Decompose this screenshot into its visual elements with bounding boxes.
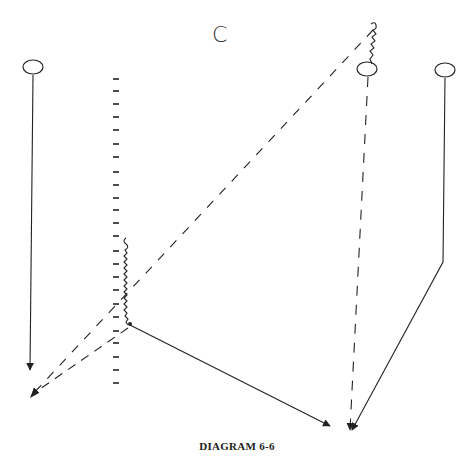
- pass-arrow: [130, 325, 330, 426]
- long-diagonal-dashed-arrow: [32, 30, 373, 395]
- left-player-cut-arrow: [30, 75, 33, 370]
- player-circle-left: [23, 60, 43, 74]
- right-player-cut-arrow: [352, 78, 445, 430]
- court-label-c: C: [212, 22, 227, 47]
- play-diagram: [0, 0, 474, 470]
- player-circle-center-right: [357, 62, 377, 76]
- top-dribble-zigzag: [370, 23, 376, 64]
- diagram-caption: DIAGRAM 6-6: [0, 440, 474, 452]
- short-diagonal-dashed-line: [40, 328, 128, 389]
- center-player-dashed-arrow: [350, 77, 368, 430]
- screen-dribble-zigzag: [124, 238, 128, 325]
- screen-dribble-end-dot: [128, 322, 132, 326]
- player-circle-right: [435, 63, 455, 77]
